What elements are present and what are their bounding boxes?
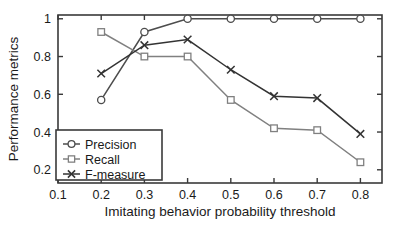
chart-figure: 0.10.20.30.40.50.60.70.8 0.20.40.60.81 P…: [0, 0, 402, 232]
circle-marker: [98, 96, 105, 103]
performance-metrics-line-chart: 0.10.20.30.40.50.60.70.8 0.20.40.60.81 P…: [0, 0, 402, 232]
x-tick-label: 0.7: [309, 188, 326, 202]
circle-marker: [141, 28, 148, 35]
square-marker: [271, 125, 278, 132]
y-tick-label: 0.2: [34, 163, 51, 177]
y-tick-label: 0.6: [34, 88, 51, 102]
y-axis-title: Performance metrics: [6, 36, 21, 161]
square-marker: [68, 156, 74, 162]
circle-marker: [68, 141, 75, 148]
chart-legend[interactable]: PrecisionRecallF-measure: [56, 130, 162, 182]
circle-marker: [270, 15, 277, 22]
legend-label: Recall: [85, 153, 120, 167]
x-axis-title: Imitating behavior probability threshold: [104, 204, 335, 219]
x-tick-label: 0.3: [136, 188, 153, 202]
x-tick-label: 0.6: [265, 188, 282, 202]
x-tick-label: 0.1: [49, 188, 66, 202]
x-tick-label: 0.2: [93, 188, 110, 202]
x-tick-label: 0.8: [352, 188, 369, 202]
x-tick-label: 0.4: [179, 188, 196, 202]
legend-label: F-measure: [85, 168, 145, 182]
y-tick-label: 0.4: [34, 126, 51, 140]
circle-marker: [227, 15, 234, 22]
y-tick-label: 0.8: [34, 50, 51, 64]
square-marker: [184, 53, 191, 60]
square-marker: [141, 53, 148, 60]
legend-label: Precision: [85, 138, 136, 152]
circle-marker: [314, 15, 321, 22]
circle-marker: [184, 15, 191, 22]
square-marker: [228, 97, 235, 104]
y-tick-label: 1: [44, 12, 51, 26]
x-tick-label: 0.5: [222, 188, 239, 202]
square-marker: [98, 29, 105, 36]
square-marker: [357, 159, 364, 166]
square-marker: [314, 127, 321, 134]
circle-marker: [357, 15, 364, 22]
